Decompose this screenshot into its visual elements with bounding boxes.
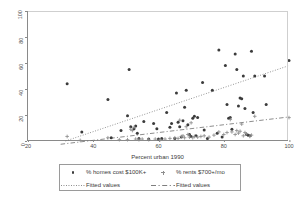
data-point xyxy=(212,133,216,137)
data-point xyxy=(234,52,237,55)
legend-entry-fit-homes: Fitted values xyxy=(60,179,150,192)
data-point xyxy=(226,103,229,106)
data-point xyxy=(140,137,144,141)
legend-label: Fitted values xyxy=(176,182,210,189)
x-axis-tick: 60 xyxy=(155,140,161,149)
data-point xyxy=(263,75,266,78)
x-axis-title: Percent urban 1990 xyxy=(27,154,288,160)
x-axis-tick: 100 xyxy=(284,140,293,149)
legend-label: % rents $700+/mo xyxy=(176,169,225,176)
y-axis-tick-mark xyxy=(25,37,27,38)
legend-row: Fitted values Fitted values xyxy=(60,179,240,192)
y-axis-tick-mark xyxy=(25,115,27,116)
data-point xyxy=(152,122,155,125)
data-point xyxy=(80,130,83,133)
data-point xyxy=(106,98,109,101)
y-axis-tick-label: 40 xyxy=(19,90,25,96)
data-point xyxy=(106,136,110,140)
data-point xyxy=(225,131,229,135)
data-point xyxy=(224,64,227,67)
data-point xyxy=(253,75,256,78)
x-axis-tick: 80 xyxy=(221,140,227,149)
data-point xyxy=(252,111,255,114)
data-point xyxy=(202,134,206,138)
dashed-line-icon xyxy=(150,184,176,187)
data-point xyxy=(110,136,113,139)
y-axis-tick-mark xyxy=(25,89,27,90)
x-axis-tick-mark xyxy=(159,140,160,142)
legend-entry-rents: % rents $700+/mo xyxy=(150,166,240,179)
legend-entry-fit-rents: Fitted values xyxy=(150,179,240,192)
data-point xyxy=(221,136,224,139)
data-point xyxy=(128,68,131,71)
data-point xyxy=(242,134,246,138)
data-point xyxy=(265,103,268,106)
legend-label: % homes cost $100K+ xyxy=(86,169,146,176)
data-point xyxy=(126,114,129,117)
y-axis-tick-label: 100 xyxy=(18,10,24,19)
x-axis-tick-mark xyxy=(224,140,225,142)
data-point xyxy=(155,127,158,130)
data-point xyxy=(189,121,193,125)
data-point xyxy=(193,115,196,118)
data-point xyxy=(288,59,291,62)
series-rents-points xyxy=(65,115,290,143)
data-point xyxy=(186,123,189,126)
data-point xyxy=(177,121,180,124)
plot-frame: 020406080100 20406080100 xyxy=(27,11,288,141)
legend-entry-homes: % homes cost $100K+ xyxy=(60,166,150,179)
data-point xyxy=(168,126,171,129)
plot-area xyxy=(28,11,288,140)
data-point xyxy=(240,97,243,100)
data-point xyxy=(118,138,122,142)
y-axis-tick-label: 20 xyxy=(19,116,25,122)
data-point xyxy=(183,106,186,109)
data-point xyxy=(211,89,214,92)
data-point xyxy=(201,81,204,84)
data-point xyxy=(134,137,138,141)
data-point xyxy=(233,133,237,137)
y-axis-tick: 60 xyxy=(19,54,25,72)
y-axis-tick: 40 xyxy=(19,80,25,98)
plot-canvas xyxy=(28,11,289,141)
data-point xyxy=(230,130,234,134)
data-point xyxy=(65,135,69,139)
data-point xyxy=(126,138,130,142)
x-axis-tick-mark xyxy=(28,140,29,142)
data-point xyxy=(185,89,188,92)
data-point xyxy=(165,111,168,114)
legend-label: Fitted values xyxy=(86,182,120,189)
data-point xyxy=(168,137,172,141)
dotted-line-icon xyxy=(60,184,86,187)
scatter-chart-figure: 020406080100 20406080100 Percent urban 1… xyxy=(0,0,299,197)
y-axis-tick: 100 xyxy=(16,2,25,20)
data-point xyxy=(176,137,180,141)
filled-circle-marker-icon xyxy=(60,171,86,174)
data-point xyxy=(199,135,203,139)
series-homes-points xyxy=(66,49,291,141)
chart-legend: % homes cost $100K+ % rents $700+/mo Fit… xyxy=(59,164,241,191)
data-point xyxy=(175,91,178,94)
y-axis-tick-mark xyxy=(25,63,27,64)
data-point xyxy=(287,116,291,120)
x-axis-tick: 20 xyxy=(25,140,31,149)
data-point xyxy=(181,119,184,122)
data-point xyxy=(253,115,257,119)
data-point xyxy=(142,120,145,123)
x-axis-tick-mark xyxy=(93,140,94,142)
data-point xyxy=(217,49,220,52)
data-point xyxy=(136,132,139,135)
data-point xyxy=(242,75,245,78)
data-point xyxy=(250,50,253,53)
data-point xyxy=(243,107,246,110)
y-axis-tick: 20 xyxy=(19,106,25,124)
data-point xyxy=(66,82,69,85)
data-point xyxy=(235,68,238,71)
data-point xyxy=(119,129,122,132)
data-point xyxy=(203,128,206,131)
y-axis-tick-mark xyxy=(25,11,27,12)
data-point xyxy=(196,116,199,119)
data-point xyxy=(163,137,167,141)
data-point xyxy=(178,125,181,128)
plus-marker-icon xyxy=(150,171,176,175)
